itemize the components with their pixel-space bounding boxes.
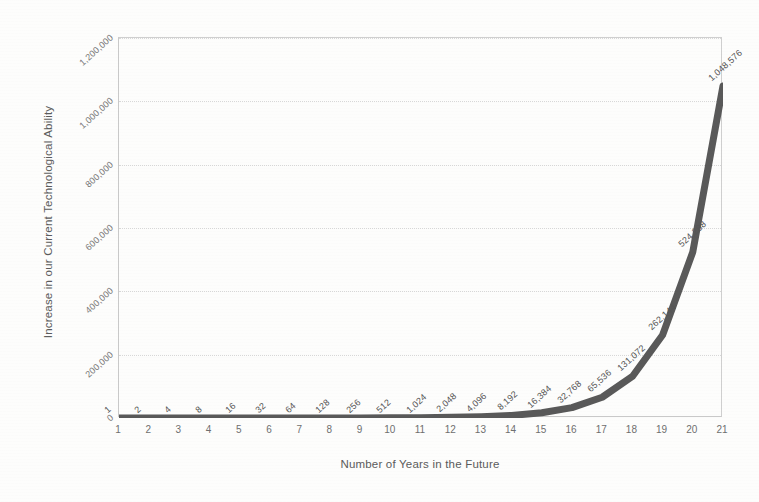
- y-tick-label: 200,000: [83, 349, 115, 379]
- x-tick-label: 11: [408, 424, 432, 435]
- x-tick-label: 1: [106, 424, 130, 435]
- x-tick-label: 8: [317, 424, 341, 435]
- x-tick-label: 12: [438, 424, 462, 435]
- x-tick-label: 18: [619, 424, 643, 435]
- x-tick-label: 3: [166, 424, 190, 435]
- y-axis-tick-labels: 0200,000400,000600,000800,0001,000,0001,…: [0, 0, 112, 460]
- x-tick-label: 14: [499, 424, 523, 435]
- x-tick-label: 19: [650, 424, 674, 435]
- x-tick-label: 20: [680, 424, 704, 435]
- x-tick-label: 5: [227, 424, 251, 435]
- x-tick-label: 9: [348, 424, 372, 435]
- x-tick-label: 2: [136, 424, 160, 435]
- y-tick-label: 600,000: [83, 222, 115, 252]
- x-tick-label: 15: [529, 424, 553, 435]
- series-line-exponential: [119, 86, 723, 418]
- x-tick-label: 4: [197, 424, 221, 435]
- x-axis-title: Number of Years in the Future: [118, 458, 722, 470]
- y-tick-label: 1,200,000: [78, 32, 116, 67]
- x-tick-label: 7: [287, 424, 311, 435]
- chart-page: Increase in our Current Technological Ab…: [0, 0, 759, 502]
- x-tick-label: 17: [589, 424, 613, 435]
- x-tick-label: 10: [378, 424, 402, 435]
- x-tick-label: 6: [257, 424, 281, 435]
- y-tick-label: 800,000: [83, 159, 115, 189]
- y-tick-label: 400,000: [83, 286, 115, 316]
- x-tick-label: 21: [710, 424, 734, 435]
- x-tick-label: 13: [468, 424, 492, 435]
- x-tick-label: 16: [559, 424, 583, 435]
- y-tick-label: 1,000,000: [78, 96, 116, 131]
